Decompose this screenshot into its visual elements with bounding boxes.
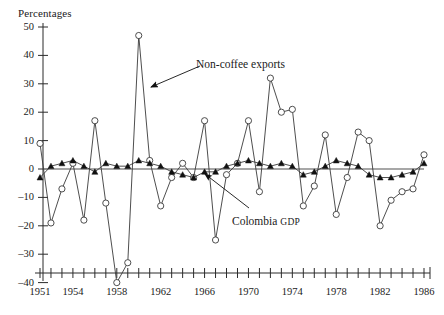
y-tick-label: –20 [4,220,34,231]
data-point-marker [421,152,427,158]
data-point-marker [158,203,164,209]
data-point-marker [322,163,328,168]
data-point-marker [245,157,251,162]
data-point-marker [410,186,416,192]
x-tick-label: 1978 [316,286,356,297]
data-point-marker [333,211,339,217]
x-tick-label: 1974 [272,286,312,297]
data-point-marker [169,174,175,180]
x-tick-label: 1966 [185,286,225,297]
annotation-label-non-coffee-exports: Non-coffee exports [196,58,285,70]
data-point-marker [103,200,109,206]
data-point-marker [103,160,109,165]
data-point-marker [114,280,120,286]
y-tick-label: 10 [4,135,34,146]
x-tick-label: 1962 [141,286,181,297]
annotation-arrow [151,66,200,87]
y-tick-label: 30 [4,78,34,89]
data-point-marker [289,106,295,112]
data-point-marker [300,203,306,209]
x-tick-label: 1958 [97,286,137,297]
data-point-marker [399,189,405,195]
data-point-marker [366,138,372,144]
data-point-marker [245,118,251,124]
y-tick-label: 20 [4,106,34,117]
data-point-marker [136,157,142,162]
data-point-marker [180,160,186,166]
data-point-marker [136,32,142,38]
data-point-marker [81,163,87,168]
x-tick-label: 1982 [360,286,400,297]
data-point-marker [81,217,87,223]
data-point-marker [344,174,350,180]
chart-plot-area [0,0,444,315]
data-point-marker [267,75,273,81]
x-tick-label: 1954 [53,286,93,297]
data-point-marker [256,189,262,195]
y-tick-label: 50 [4,21,34,32]
data-point-marker [311,183,317,189]
data-point-marker [377,223,383,229]
data-point-marker [201,118,207,124]
annotation-label-colombia-gdp: Colombia GDP [232,215,300,227]
y-tick-label: –30 [4,248,34,259]
data-point-marker [388,197,394,203]
data-point-marker [278,160,284,165]
x-tick-label: 1970 [228,286,268,297]
data-point-marker [37,140,43,146]
data-point-marker [92,118,98,124]
data-point-marker [355,129,361,135]
y-tick-label: 40 [4,49,34,60]
data-point-marker [70,157,76,162]
series-line [40,36,424,283]
annotation-label-abbrev: GDP [280,217,300,227]
data-point-marker [278,109,284,115]
data-point-marker [48,220,54,226]
data-point-marker [223,172,229,178]
y-tick-label: 0 [4,163,34,174]
data-point-marker [322,132,328,138]
data-point-marker [59,186,65,192]
data-point-marker [333,157,339,162]
annotation-arrow [205,174,249,208]
x-tick-label: 1986 [404,286,444,297]
chart-container: Percentages 50403020100–10–20–30–4019511… [0,0,444,315]
data-point-marker [125,260,131,266]
data-point-marker [212,237,218,243]
y-tick-label: –10 [4,191,34,202]
series-non-coffee-exports [37,32,427,285]
